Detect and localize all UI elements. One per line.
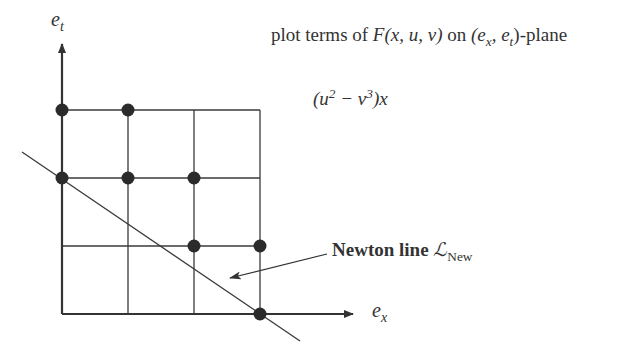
term-point bbox=[122, 172, 135, 185]
newton-pointer-arrow bbox=[230, 254, 327, 278]
term-point bbox=[188, 240, 201, 253]
ex-axis-label: ex bbox=[372, 299, 387, 326]
ex-axis-subscript: x bbox=[381, 310, 387, 325]
title-prefix: plot terms of bbox=[271, 24, 373, 45]
term-point bbox=[254, 240, 267, 253]
newton-polygon-diagram bbox=[0, 0, 632, 359]
title-plane-sep: , e bbox=[492, 24, 510, 45]
expr-minus: − v bbox=[335, 88, 366, 109]
term-point bbox=[56, 104, 69, 117]
et-axis-label: et bbox=[51, 8, 64, 35]
term-point bbox=[254, 308, 267, 321]
term-point bbox=[56, 172, 69, 185]
term-point bbox=[188, 172, 201, 185]
diagram-title: plot terms of F(x, u, v) on (ex, et)-pla… bbox=[271, 24, 567, 50]
expr-close: )x bbox=[373, 88, 388, 109]
title-args: (x, u, v) bbox=[384, 24, 442, 45]
term-point bbox=[122, 104, 135, 117]
title-mid: on bbox=[443, 24, 472, 45]
newton-label-text: Newton line bbox=[332, 239, 429, 260]
title-suffix: )-plane bbox=[513, 24, 567, 45]
grid bbox=[62, 110, 260, 314]
term-points bbox=[56, 104, 267, 321]
newton-label-subscript: New bbox=[447, 249, 472, 264]
title-function: F bbox=[373, 24, 385, 45]
newton-line-label: Newton line ℒNew bbox=[332, 238, 472, 265]
et-axis-symbol: e bbox=[51, 8, 60, 30]
et-axis-subscript: t bbox=[60, 19, 64, 34]
expr-sup-2: 3 bbox=[366, 86, 373, 101]
term-expression: (u2 − v3)x bbox=[313, 86, 388, 110]
expr-open: (u bbox=[313, 88, 329, 109]
title-plane-open: (e bbox=[471, 24, 486, 45]
newton-label-symbol: ℒ bbox=[433, 239, 447, 260]
ex-axis-symbol: e bbox=[372, 299, 381, 321]
